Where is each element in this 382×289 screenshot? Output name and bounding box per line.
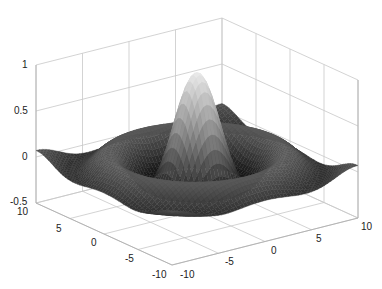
- z-tick-0.5: 0.5: [14, 105, 28, 116]
- left-axis-tick-10: 10: [17, 206, 29, 217]
- surface-plot: 1 0.5 0 -0.5 10 5 0 -5 -10 -10 -5 0 5 10: [0, 0, 382, 289]
- left-axis-tick-neg5: -5: [125, 253, 134, 264]
- z-tick-1: 1: [22, 59, 28, 70]
- right-axis-tick-0: 0: [271, 245, 277, 256]
- right-axis-tick-10: 10: [361, 221, 373, 232]
- left-axis-tick-5: 5: [56, 223, 62, 234]
- right-axis-tick-neg10: -10: [180, 269, 195, 280]
- left-axis-tick-neg10: -10: [152, 269, 167, 280]
- sinc-surface: [36, 73, 358, 217]
- z-tick-0: 0: [22, 151, 28, 162]
- right-axis-tick-5: 5: [316, 233, 322, 244]
- left-axis-tick-0: 0: [91, 237, 97, 248]
- right-axis-tick-neg5: -5: [225, 256, 234, 267]
